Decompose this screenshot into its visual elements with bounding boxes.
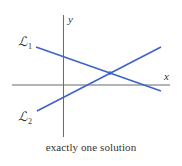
line-l1-label-sub: 1 (28, 42, 32, 51)
diagram-canvas: y x ℒ 1 ℒ 2 exactly one solution (0, 0, 182, 166)
line-l2 (37, 47, 161, 111)
x-axis-label: x (163, 70, 169, 82)
diagram-caption: exactly one solution (0, 141, 182, 153)
line-l1-label: ℒ 1 (18, 34, 32, 51)
line-l1-label-main: ℒ (18, 34, 28, 49)
intersection-point (108, 71, 112, 75)
line-l1 (36, 47, 161, 91)
line-l2-label-sub: 2 (28, 117, 32, 126)
line-l2-label-main: ℒ (18, 109, 28, 124)
y-axis-label: y (67, 13, 73, 25)
line-l2-label: ℒ 2 (18, 109, 32, 126)
